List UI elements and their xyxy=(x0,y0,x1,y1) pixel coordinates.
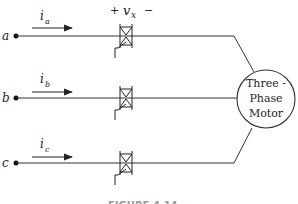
current-label-b: i xyxy=(40,72,44,86)
triac-a-icon xyxy=(115,24,132,58)
current-sub-c: c xyxy=(45,145,50,154)
voltage-minus: − xyxy=(144,4,153,17)
current-label-c: i xyxy=(40,137,44,151)
terminal-label-c: c xyxy=(2,156,9,170)
voltage-subscript: x xyxy=(131,10,136,20)
voltage-label: + v x − xyxy=(110,3,153,20)
phase-c: c i c xyxy=(2,128,252,185)
terminal-label-a: a xyxy=(2,29,9,43)
current-sub-a: a xyxy=(45,17,50,26)
wire-c-to-motor xyxy=(234,128,252,163)
current-sub-b: b xyxy=(45,80,50,89)
phase-b: b i b xyxy=(2,72,237,120)
motor-label-line2: Phase xyxy=(249,92,282,105)
motor-label-line1: Three - xyxy=(246,77,286,90)
voltage-symbol: v xyxy=(123,3,131,18)
triac-c-icon xyxy=(115,151,132,185)
motor-label-line3: Motor xyxy=(249,107,284,120)
phase-a: a i a xyxy=(2,9,254,72)
voltage-plus: + xyxy=(110,4,119,17)
figure-caption: FIGURE 4.14 xyxy=(108,200,178,204)
triac-b-icon xyxy=(115,86,132,120)
current-label-a: i xyxy=(40,9,44,23)
three-phase-motor: Three - Phase Motor xyxy=(237,70,295,128)
three-phase-triac-diagram: + v x − a i a b i b xyxy=(0,0,298,204)
wire-a-to-motor xyxy=(234,36,254,72)
terminal-label-b: b xyxy=(2,91,10,105)
